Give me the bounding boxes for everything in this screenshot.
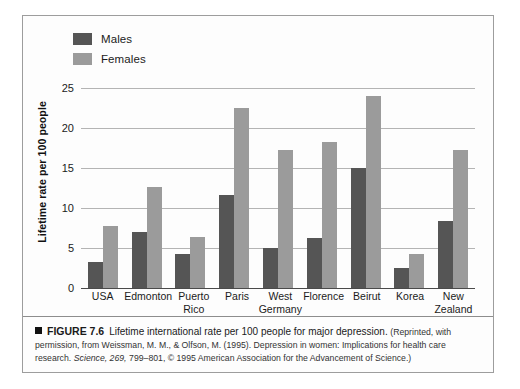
x-axis-label-line: Edmonton bbox=[124, 290, 172, 303]
bar-group-usa bbox=[81, 88, 125, 288]
bar-group-beirut bbox=[344, 88, 388, 288]
bar-males-beirut bbox=[351, 168, 366, 288]
y-tick-label-10: 10 bbox=[62, 202, 74, 214]
x-axis-label-korea: Korea bbox=[388, 290, 431, 315]
bar-group-korea bbox=[387, 88, 431, 288]
x-axis-label-westgermany: WestGermany bbox=[259, 290, 302, 315]
bar-females-korea bbox=[409, 254, 424, 288]
bar-males-usa bbox=[88, 262, 103, 288]
x-axis-label-paris: Paris bbox=[215, 290, 258, 315]
bar-males-paris bbox=[219, 195, 234, 288]
x-axis-label-line: Paris bbox=[215, 290, 258, 303]
figure-credit-close: 799–801, © 1995 American Association for… bbox=[129, 353, 411, 363]
x-axis-label-edmonton: Edmonton bbox=[124, 290, 172, 315]
figure-number: FIGURE 7.6 bbox=[47, 325, 104, 337]
x-axis-label-florence: Florence bbox=[302, 290, 345, 315]
bar-males-florence bbox=[307, 238, 322, 288]
figure-title: Lifetime international rate per 100 peop… bbox=[109, 326, 388, 337]
x-axis-label-line: Rico bbox=[172, 303, 215, 316]
figure-credit-journal: Science, 269, bbox=[74, 353, 127, 363]
y-tick-label-20: 20 bbox=[62, 122, 74, 134]
x-axis-label-line: Germany bbox=[259, 303, 302, 316]
caption-bullet-square-icon bbox=[35, 327, 42, 334]
plot-canvas: 0510152025 bbox=[81, 88, 475, 288]
gridline-0: 0 bbox=[81, 288, 475, 289]
bar-females-westgermany bbox=[278, 150, 293, 288]
x-axis-label-line: Korea bbox=[388, 290, 431, 303]
bar-group-paris bbox=[212, 88, 256, 288]
y-tick-label-25: 25 bbox=[62, 82, 74, 94]
bar-males-korea bbox=[394, 268, 409, 288]
x-axis-label-usa: USA bbox=[81, 290, 124, 315]
bar-females-newzealand bbox=[453, 150, 468, 288]
bar-females-edmonton bbox=[147, 187, 162, 288]
figure-caption-box: FIGURE 7.6Lifetime international rate pe… bbox=[23, 316, 493, 372]
y-axis-title: Lifetime rate per 100 people bbox=[36, 87, 48, 257]
bar-group-florence bbox=[300, 88, 344, 288]
x-axis-label-line: Puerto bbox=[172, 290, 215, 303]
x-axis-label-newzealand: NewZealand bbox=[432, 290, 475, 315]
y-tick-label-5: 5 bbox=[68, 242, 74, 254]
bar-males-westgermany bbox=[263, 248, 278, 288]
bar-group-edmonton bbox=[125, 88, 169, 288]
bar-males-edmonton bbox=[132, 232, 147, 288]
plot-area: Lifetime rate per 100 people 0510152025 … bbox=[23, 16, 495, 316]
y-tick-label-15: 15 bbox=[62, 162, 74, 174]
bar-females-paris bbox=[234, 108, 249, 288]
x-axis-label-puertorico: PuertoRico bbox=[172, 290, 215, 315]
x-axis-label-line: USA bbox=[81, 290, 124, 303]
bar-group-new-zealand bbox=[431, 88, 475, 288]
figure-caption-text: FIGURE 7.6Lifetime international rate pe… bbox=[35, 325, 479, 366]
x-axis-labels: USAEdmontonPuertoRicoParisWestGermanyFlo… bbox=[81, 290, 475, 315]
bar-group-west-germany bbox=[256, 88, 300, 288]
x-axis-label-line: Zealand bbox=[432, 303, 475, 316]
x-axis-label-line: New bbox=[432, 290, 475, 303]
bar-females-usa bbox=[103, 226, 118, 288]
bars-group bbox=[81, 88, 475, 288]
bar-females-florence bbox=[322, 142, 337, 288]
bar-males-newzealand bbox=[438, 221, 453, 288]
bar-females-puertorico bbox=[190, 237, 205, 288]
x-axis-label-beirut: Beirut bbox=[345, 290, 388, 315]
x-axis-label-line: Beirut bbox=[345, 290, 388, 303]
x-axis-label-line: West bbox=[259, 290, 302, 303]
bar-group-puerto-rico bbox=[169, 88, 213, 288]
bar-females-beirut bbox=[366, 96, 381, 288]
bar-males-puertorico bbox=[175, 254, 190, 288]
figure-container: Males Females Lifetime rate per 100 peop… bbox=[22, 15, 494, 373]
y-tick-label-0: 0 bbox=[68, 282, 74, 294]
x-axis-label-line: Florence bbox=[302, 290, 345, 303]
